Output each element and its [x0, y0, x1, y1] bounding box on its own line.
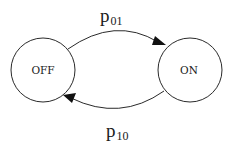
state-off: OFF [11, 38, 75, 102]
label-subscript: 01 [111, 14, 123, 28]
arrowhead-left-icon [63, 93, 76, 103]
transition-label-p01: p01 [100, 5, 123, 28]
state-diagram: p01 p10 OFF ON [0, 0, 235, 154]
state-on: ON [158, 38, 222, 102]
transition-on-to-off: p10 [63, 91, 164, 143]
transition-label-p10: p10 [106, 120, 129, 143]
state-off-label: OFF [31, 64, 54, 76]
transition-off-to-on: p01 [68, 5, 166, 49]
arrowhead-right-icon [152, 36, 166, 45]
label-main: p [106, 120, 116, 141]
label-main: p [100, 5, 110, 26]
state-on-label: ON [180, 64, 198, 76]
edge-on-to-off [71, 91, 164, 108]
edge-off-to-on [68, 31, 158, 49]
label-subscript: 10 [117, 129, 129, 143]
